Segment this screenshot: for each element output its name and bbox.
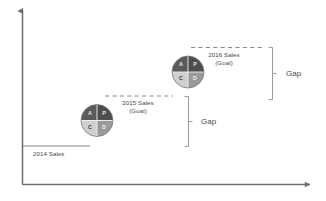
pdca-2015-letter-a: A <box>88 110 92 116</box>
pdca-2015-letter-d: D <box>102 124 106 130</box>
pdca-cycle-2015: A P C D <box>81 105 113 137</box>
level-2015-label-line1: 2015 Sales <box>112 99 164 107</box>
pdca-2015-letter-c: C <box>88 124 92 130</box>
level-2016-label-line1: 2016 Sales <box>198 51 250 59</box>
pdca-2016-letter-d: D <box>193 75 197 81</box>
gap-lower-label: Gap <box>201 117 216 126</box>
diagram-canvas: A P C D A P C D <box>0 0 326 201</box>
gap-lower-bracket <box>185 97 192 147</box>
level-2016-label-line2: (Goal) <box>198 59 250 67</box>
gap-upper-bracket <box>269 48 276 100</box>
gap-upper-label: Gap <box>286 69 301 78</box>
pdca-2016-letter-a: A <box>179 61 183 67</box>
pdca-2016-letter-p: P <box>193 61 197 67</box>
level-2015-label-line2: (Goal) <box>112 107 164 115</box>
baseline-2014-label: 2014 Sales <box>33 150 64 158</box>
pdca-2015-letter-p: P <box>102 110 106 116</box>
level-2015-label: 2015 Sales (Goal) <box>112 99 164 115</box>
level-2016-label: 2016 Sales (Goal) <box>198 51 250 67</box>
pdca-2016-letter-c: C <box>179 75 183 81</box>
